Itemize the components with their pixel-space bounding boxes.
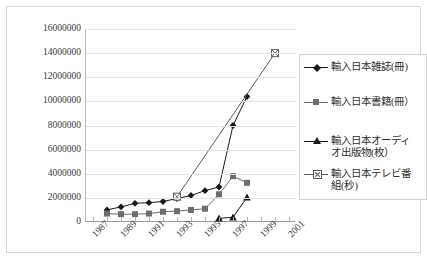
x-axis-tick	[205, 217, 206, 221]
data-point-marker	[160, 198, 167, 205]
y-axis-tick-label: 10000000	[11, 95, 81, 105]
gridline	[86, 77, 296, 78]
data-point-marker	[174, 193, 181, 200]
x-axis-tick	[107, 217, 108, 221]
y-axis-tick-label: 12000000	[11, 71, 81, 81]
x-axis-tick	[177, 217, 178, 221]
y-axis-labels: 0200000040000006000000800000010000000120…	[7, 29, 81, 222]
x-axis-tick	[191, 217, 192, 221]
x-axis-labels: 19871989199119931995199719992001	[85, 226, 315, 266]
data-point-marker	[216, 184, 223, 191]
gridline	[86, 126, 296, 127]
x-axis-tick	[247, 217, 248, 221]
legend-marker-diamond-icon	[304, 62, 328, 74]
x-axis-tick	[163, 217, 164, 221]
legend-item-1[interactable]: 輸入日本雑誌(冊)	[304, 61, 426, 74]
data-point-marker	[160, 209, 166, 215]
plot-area	[85, 29, 295, 222]
data-point-marker	[146, 211, 152, 217]
x-axis-tick	[219, 217, 220, 221]
data-point-marker	[104, 211, 110, 217]
data-point-marker	[202, 206, 208, 212]
legend-marker-triangle-icon	[304, 136, 328, 148]
y-axis-tick-label: 8000000	[11, 120, 81, 130]
y-axis-tick-label: 2000000	[11, 192, 81, 202]
legend-label: 輸入日本オーディ オ出版物(枚）	[331, 135, 410, 158]
data-point-marker	[216, 191, 222, 197]
y-axis-tick-label: 16000000	[11, 23, 81, 33]
y-axis-tick-label: 6000000	[11, 144, 81, 154]
data-point-marker	[146, 199, 153, 206]
legend-item-4[interactable]: 輸入日本テレビ番 組(秒)	[304, 168, 426, 191]
data-point-marker	[188, 207, 194, 213]
x-axis-tick	[261, 217, 262, 221]
data-point-marker	[132, 200, 139, 207]
gridline	[86, 101, 296, 102]
gridline	[86, 53, 296, 54]
chart-legend: 輸入日本雑誌(冊)輸入日本書籍(冊）輸入日本オーディ オ出版物(枚）輸入日本テレ…	[299, 54, 427, 200]
gridline	[86, 29, 296, 30]
data-point-marker	[202, 187, 209, 194]
legend-label: 輸入日本雑誌(冊)	[331, 61, 408, 73]
legend-item-2[interactable]: 輸入日本書籍(冊）	[304, 96, 426, 109]
x-axis-tick	[121, 217, 122, 221]
legend-label: 輸入日本書籍(冊）	[331, 96, 415, 108]
data-point-marker	[174, 208, 180, 214]
legend-item-3[interactable]: 輸入日本オーディ オ出版物(枚）	[304, 135, 426, 158]
y-axis-tick-label: 14000000	[11, 47, 81, 57]
y-axis-tick-label: 0	[11, 216, 81, 226]
data-point-marker	[244, 180, 250, 186]
gridline	[86, 174, 296, 175]
gridline	[86, 198, 296, 199]
legend-marker-crossed-square-icon	[304, 169, 328, 181]
x-axis-tick	[275, 217, 276, 221]
x-axis-tick	[289, 217, 290, 221]
data-point-marker	[118, 204, 125, 211]
chart-container: 0200000040000006000000800000010000000120…	[0, 0, 427, 277]
legend-label: 輸入日本テレビ番 組(秒)	[331, 168, 411, 191]
x-axis-tick	[135, 217, 136, 221]
x-axis-tick	[149, 217, 150, 221]
y-axis-tick-label: 4000000	[11, 168, 81, 178]
chart-frame: 0200000040000006000000800000010000000120…	[6, 6, 421, 253]
legend-marker-square-icon	[304, 97, 328, 109]
x-axis-tick	[93, 217, 94, 221]
x-axis-tick	[233, 217, 234, 221]
gridline	[86, 150, 296, 151]
